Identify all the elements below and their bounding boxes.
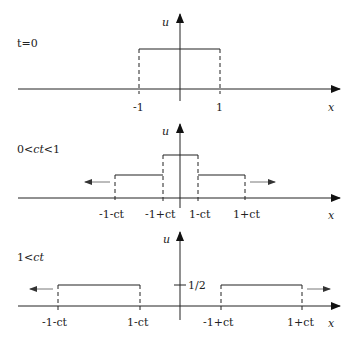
panel-late — [18, 232, 340, 320]
tick-label: 1-ct — [127, 316, 149, 329]
panel-intermediate — [18, 124, 340, 208]
panel-t0 — [18, 14, 340, 101]
tick-label: -1+ct — [145, 208, 176, 221]
tick-label: -1+ct — [203, 316, 234, 329]
condition-label: 0<ct<1 — [17, 143, 60, 156]
condition-label: 1<ct — [17, 251, 44, 264]
x-axis-label: x — [328, 101, 335, 114]
x-axis-label: x — [328, 209, 335, 222]
u-axis-label: u — [162, 16, 169, 29]
tick-label: 1+ct — [233, 208, 260, 221]
tick-label: -1 — [133, 101, 144, 114]
u-axis-label: u — [163, 233, 170, 246]
x-axis-label: x — [328, 317, 335, 330]
tick-label: -1-ct — [99, 208, 125, 221]
tick-label: 1 — [216, 101, 223, 114]
tick-label: -1-ct — [42, 316, 68, 329]
u-axis-label: u — [162, 125, 169, 138]
wave-diagram: t=0 u x -1 1 0<ct<1 u x -1-ct -1+ct 1-ct… — [0, 0, 358, 344]
tick-label: 1-ct — [189, 208, 211, 221]
u-tick-label: 1/2 — [188, 279, 206, 292]
tick-label: 1+ct — [287, 316, 314, 329]
condition-label: t=0 — [17, 37, 38, 50]
